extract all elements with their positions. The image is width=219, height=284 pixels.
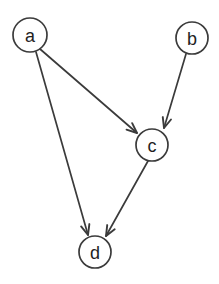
node-group: a b c d — [13, 18, 208, 268]
edge-c-to-d[interactable] — [106, 161, 148, 236]
directed-graph-canvas: a b c d — [0, 0, 219, 284]
edge-a-to-c[interactable] — [40, 49, 137, 133]
node-b-label: b — [187, 29, 197, 49]
node-c-label: c — [148, 136, 157, 156]
node-c[interactable]: c — [136, 129, 168, 161]
node-d[interactable]: d — [79, 236, 111, 268]
edge-b-to-c-line — [164, 54, 186, 128]
edge-a-to-c-line — [40, 49, 137, 133]
node-a[interactable]: a — [13, 18, 47, 52]
edge-b-to-c[interactable] — [163, 54, 186, 128]
node-d-label: d — [90, 243, 100, 263]
node-b[interactable]: b — [176, 22, 208, 54]
edge-a-to-d-line — [36, 52, 88, 235]
node-a-label: a — [25, 26, 36, 46]
edge-a-to-d[interactable] — [36, 52, 89, 235]
edge-c-to-d-line — [106, 161, 148, 236]
